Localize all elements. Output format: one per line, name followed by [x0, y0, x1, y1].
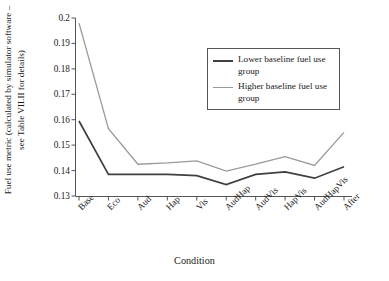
chart-figure: Fuel use metric (calculated by simulator…	[0, 0, 389, 281]
legend-item-lower-baseline: Lower baseline fuel use group	[213, 54, 333, 77]
y-axis-ticks	[72, 18, 76, 196]
legend-item-higher-baseline: Higher baseline fuel use group	[213, 81, 333, 104]
legend-line-icon	[213, 81, 233, 93]
legend-label: Higher baseline fuel use group	[238, 81, 333, 104]
series-line-lower-baseline	[79, 121, 344, 185]
plot-area	[0, 0, 389, 281]
x-axis-title: Condition	[0, 255, 389, 266]
chart-legend: Lower baseline fuel use group Higher bas…	[207, 48, 340, 110]
legend-label: Lower baseline fuel use group	[238, 54, 333, 77]
legend-line-icon	[213, 54, 233, 66]
